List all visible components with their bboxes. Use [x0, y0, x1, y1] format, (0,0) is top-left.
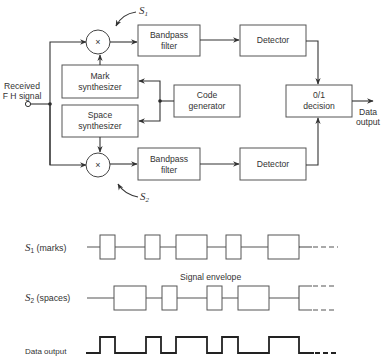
svg-text:Code: Code	[197, 90, 218, 100]
svg-text:generator: generator	[189, 101, 226, 111]
svg-text:synthesizer: synthesizer	[78, 82, 122, 92]
multiply-icon: ×	[95, 160, 100, 170]
code-to-mark-synth	[139, 81, 160, 101]
detector-top-to-decision	[306, 41, 318, 84]
s2-wave-label: S2 (spaces)	[25, 291, 70, 304]
detector-top: Detector	[240, 25, 306, 56]
svg-text:filter: filter	[161, 41, 177, 51]
svg-text:synthesizer: synthesizer	[78, 121, 122, 131]
s1-marks-waveform	[87, 235, 338, 259]
output-label-line1: Data	[359, 107, 377, 117]
bus-to-top-mixer	[50, 42, 86, 165]
code-generator: Code generator	[174, 85, 240, 117]
svg-text:Bandpass: Bandpass	[150, 30, 188, 40]
detector-bottom: Detector	[240, 148, 306, 180]
s2-pointer-arrow	[118, 184, 138, 197]
mark-synthesizer: Mark synthesizer	[62, 65, 138, 98]
s2-annotation: S2	[140, 190, 150, 204]
decision-block: 0/1 decision	[286, 85, 352, 117]
mixer-bottom: ×	[86, 153, 110, 177]
s1-pointer-arrow	[116, 12, 136, 26]
block-diagram: Received F H signal × S1 Bandpass filter…	[3, 4, 381, 204]
svg-text:Detector: Detector	[257, 35, 290, 45]
svg-text:0/1: 0/1	[313, 90, 325, 100]
svg-text:decision: decision	[303, 101, 335, 111]
svg-text:Bandpass: Bandpass	[150, 154, 188, 164]
fh-receiver-diagram: Received F H signal × S1 Bandpass filter…	[0, 0, 387, 364]
multiply-icon: ×	[95, 37, 100, 47]
data-output-label: Data output	[25, 347, 67, 356]
code-to-space-synth	[139, 101, 160, 121]
svg-text:filter: filter	[161, 165, 177, 175]
data-output-waveform	[86, 337, 337, 353]
input-label-line2: F H signal	[3, 91, 42, 101]
detector-bottom-to-decision	[306, 118, 318, 165]
svg-text:Detector: Detector	[257, 159, 290, 169]
input-terminal	[25, 101, 30, 106]
output-label-line2: output	[356, 117, 381, 127]
input-label-line1: Received	[4, 81, 40, 91]
s2-spaces-waveform	[87, 286, 336, 310]
s1-wave-label: S1 (marks)	[25, 241, 66, 254]
bandpass-filter-bottom: Bandpass filter	[138, 148, 200, 180]
waveforms: S1 (marks) S2 (spaces) Signal envelope D…	[25, 235, 338, 356]
bandpass-filter-top: Bandpass filter	[138, 25, 200, 56]
space-synthesizer: Space synthesizer	[62, 105, 138, 137]
s1-annotation: S1	[139, 4, 148, 18]
svg-text:Space: Space	[88, 110, 113, 120]
svg-text:Mark: Mark	[90, 71, 110, 81]
mixer-top: ×	[86, 30, 110, 54]
signal-envelope-label: Signal envelope	[180, 272, 241, 282]
